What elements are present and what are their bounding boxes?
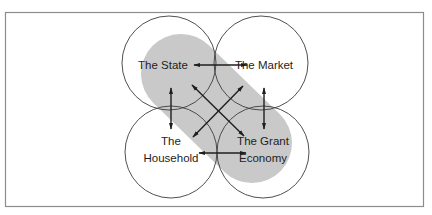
market-label: The Market [235,59,294,71]
household-label-line: Household [144,152,199,164]
household-label-line: The [161,135,181,147]
grant-label-line: Economy [239,152,287,164]
grant-label-line: The Grant [237,135,290,147]
market-label-line: The Market [235,59,294,71]
state-label: The State [138,59,188,71]
state-label-line: The State [138,59,188,71]
four-sector-economy-diagram: The StateThe MarketTheHouseholdThe Grant… [0,0,432,215]
